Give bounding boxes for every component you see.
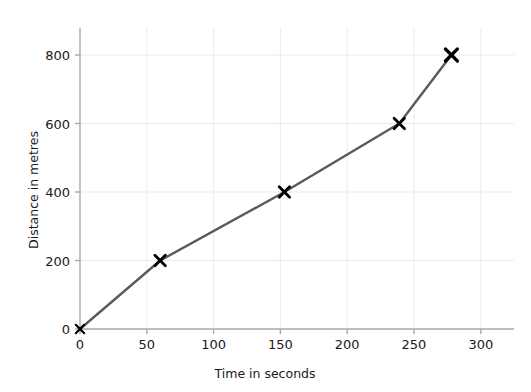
- x-axis-title: Time in seconds: [213, 366, 315, 381]
- grid-vertical: [147, 28, 481, 329]
- data-point-markers: [76, 49, 458, 333]
- axis-lines: [80, 28, 514, 329]
- y-tick-label: 0: [62, 322, 70, 337]
- distance-time-chart: 050100150200250300 0200400600800 Time in…: [0, 0, 531, 392]
- grid-horizontal: [80, 55, 514, 261]
- chart-plot-area: 050100150200250300 0200400600800 Time in…: [0, 0, 531, 392]
- y-tick-label: 800: [45, 48, 70, 63]
- x-tick-label: 150: [268, 337, 293, 352]
- x-tick-label: 250: [402, 337, 427, 352]
- y-axis-title: Distance in metres: [26, 131, 41, 249]
- y-tick-label: 600: [45, 117, 70, 132]
- x-tick-label: 200: [335, 337, 360, 352]
- x-tick-label: 50: [139, 337, 156, 352]
- x-axis-tick-labels: 050100150200250300: [76, 337, 493, 352]
- y-axis-tick-labels: 0200400600800: [45, 48, 70, 337]
- y-tick-label: 400: [45, 185, 70, 200]
- x-tick-label: 100: [201, 337, 226, 352]
- x-tick-label: 0: [76, 337, 84, 352]
- x-tick-label: 300: [468, 337, 493, 352]
- y-tick-label: 200: [45, 254, 70, 269]
